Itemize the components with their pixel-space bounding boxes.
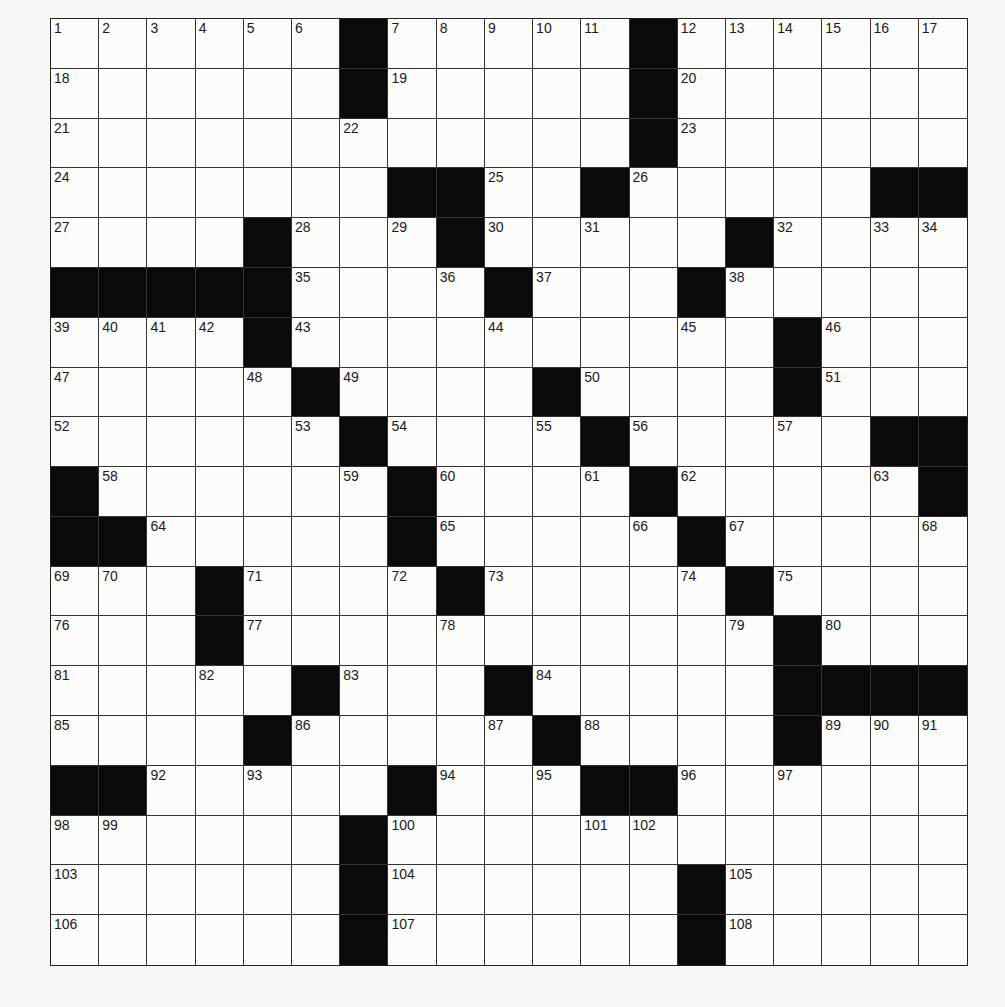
grid-cell[interactable]: [774, 69, 822, 119]
grid-cell[interactable]: 95: [533, 766, 581, 816]
grid-cell[interactable]: 72: [388, 567, 436, 617]
grid-cell[interactable]: 4: [196, 19, 244, 69]
grid-cell[interactable]: [630, 318, 678, 368]
grid-cell[interactable]: [533, 318, 581, 368]
grid-cell[interactable]: [822, 218, 870, 268]
grid-cell[interactable]: [99, 119, 147, 169]
grid-cell[interactable]: [292, 816, 340, 866]
grid-cell[interactable]: [244, 168, 292, 218]
grid-cell[interactable]: 58: [99, 467, 147, 517]
grid-cell[interactable]: 8: [437, 19, 485, 69]
grid-cell[interactable]: [871, 567, 919, 617]
grid-cell[interactable]: 74: [678, 567, 726, 617]
grid-cell[interactable]: [196, 119, 244, 169]
grid-cell[interactable]: [485, 69, 533, 119]
grid-cell[interactable]: [437, 865, 485, 915]
grid-cell[interactable]: [196, 915, 244, 965]
grid-cell[interactable]: 84: [533, 666, 581, 716]
grid-cell[interactable]: 25: [485, 168, 533, 218]
grid-cell[interactable]: [244, 816, 292, 866]
grid-cell[interactable]: 63: [871, 467, 919, 517]
grid-cell[interactable]: [581, 567, 629, 617]
grid-cell[interactable]: 18: [51, 69, 99, 119]
grid-cell[interactable]: 24: [51, 168, 99, 218]
grid-cell[interactable]: [485, 417, 533, 467]
grid-cell[interactable]: [533, 816, 581, 866]
grid-cell[interactable]: [581, 119, 629, 169]
grid-cell[interactable]: [147, 119, 195, 169]
grid-cell[interactable]: [244, 865, 292, 915]
grid-cell[interactable]: [437, 119, 485, 169]
grid-cell[interactable]: 76: [51, 616, 99, 666]
grid-cell[interactable]: [147, 666, 195, 716]
grid-cell[interactable]: 13: [726, 19, 774, 69]
grid-cell[interactable]: 91: [919, 716, 967, 766]
grid-cell[interactable]: 107: [388, 915, 436, 965]
grid-cell[interactable]: [774, 467, 822, 517]
grid-cell[interactable]: [726, 666, 774, 716]
grid-cell[interactable]: [581, 915, 629, 965]
grid-cell[interactable]: [871, 816, 919, 866]
grid-cell[interactable]: 20: [678, 69, 726, 119]
grid-cell[interactable]: [630, 666, 678, 716]
grid-cell[interactable]: [292, 119, 340, 169]
grid-cell[interactable]: [871, 616, 919, 666]
grid-cell[interactable]: [726, 716, 774, 766]
grid-cell[interactable]: 100: [388, 816, 436, 866]
grid-cell[interactable]: 45: [678, 318, 726, 368]
grid-cell[interactable]: 50: [581, 368, 629, 418]
grid-cell[interactable]: [485, 865, 533, 915]
grid-cell[interactable]: [196, 816, 244, 866]
grid-cell[interactable]: [533, 616, 581, 666]
grid-cell[interactable]: [147, 467, 195, 517]
grid-cell[interactable]: 70: [99, 567, 147, 617]
grid-cell[interactable]: 94: [437, 766, 485, 816]
grid-cell[interactable]: 67: [726, 517, 774, 567]
grid-cell[interactable]: [196, 766, 244, 816]
grid-cell[interactable]: [630, 915, 678, 965]
grid-cell[interactable]: [919, 766, 967, 816]
grid-cell[interactable]: 23: [678, 119, 726, 169]
grid-cell[interactable]: [871, 318, 919, 368]
grid-cell[interactable]: [244, 467, 292, 517]
grid-cell[interactable]: [871, 119, 919, 169]
grid-cell[interactable]: 75: [774, 567, 822, 617]
grid-cell[interactable]: 99: [99, 816, 147, 866]
grid-cell[interactable]: [822, 865, 870, 915]
grid-cell[interactable]: [196, 865, 244, 915]
grid-cell[interactable]: [919, 567, 967, 617]
grid-cell[interactable]: [774, 119, 822, 169]
grid-cell[interactable]: [822, 168, 870, 218]
grid-cell[interactable]: [99, 417, 147, 467]
grid-cell[interactable]: 42: [196, 318, 244, 368]
grid-cell[interactable]: 36: [437, 268, 485, 318]
grid-cell[interactable]: 21: [51, 119, 99, 169]
grid-cell[interactable]: [292, 915, 340, 965]
grid-cell[interactable]: [919, 318, 967, 368]
grid-cell[interactable]: 66: [630, 517, 678, 567]
grid-cell[interactable]: 92: [147, 766, 195, 816]
grid-cell[interactable]: [919, 268, 967, 318]
grid-cell[interactable]: 40: [99, 318, 147, 368]
grid-cell[interactable]: 106: [51, 915, 99, 965]
grid-cell[interactable]: [581, 318, 629, 368]
grid-cell[interactable]: 26: [630, 168, 678, 218]
grid-cell[interactable]: [196, 417, 244, 467]
grid-cell[interactable]: [822, 268, 870, 318]
grid-cell[interactable]: [340, 716, 388, 766]
grid-cell[interactable]: [388, 119, 436, 169]
grid-cell[interactable]: 69: [51, 567, 99, 617]
grid-cell[interactable]: [292, 616, 340, 666]
grid-cell[interactable]: [726, 417, 774, 467]
grid-cell[interactable]: 55: [533, 417, 581, 467]
grid-cell[interactable]: [147, 915, 195, 965]
grid-cell[interactable]: [678, 417, 726, 467]
grid-cell[interactable]: [437, 716, 485, 766]
grid-cell[interactable]: [630, 716, 678, 766]
grid-cell[interactable]: 16: [871, 19, 919, 69]
grid-cell[interactable]: [340, 517, 388, 567]
grid-cell[interactable]: [726, 318, 774, 368]
grid-cell[interactable]: [822, 766, 870, 816]
grid-cell[interactable]: [292, 168, 340, 218]
grid-cell[interactable]: 31: [581, 218, 629, 268]
